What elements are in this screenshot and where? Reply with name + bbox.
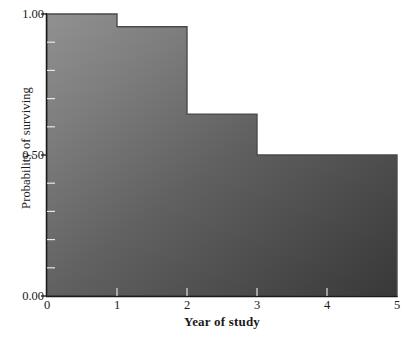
x-tick-label-4: 4	[315, 299, 339, 312]
x-tick-label-5: 5	[385, 299, 401, 312]
x-axis-title: Year of study	[47, 314, 397, 330]
y-axis-title: Probability of surviving	[16, 0, 36, 296]
plot-area	[0, 0, 401, 338]
x-tick-label-2: 2	[175, 299, 199, 312]
x-tick-label-3: 3	[245, 299, 269, 312]
x-tick-label-1: 1	[105, 299, 129, 312]
survival-step-area	[47, 14, 397, 296]
survival-curve-chart: 1.00 0.50 0.00 0 1 2 3 4 5 Probability o…	[0, 0, 401, 338]
x-tick-label-0: 0	[35, 299, 59, 312]
